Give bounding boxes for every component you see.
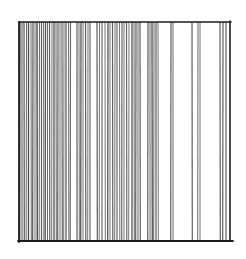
line-drawing-artwork	[0, 0, 246, 259]
